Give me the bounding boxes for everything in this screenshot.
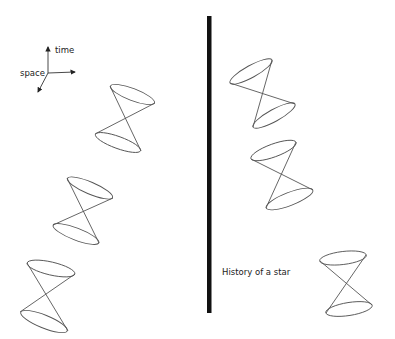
light-cone-left-3 [18,257,76,337]
time-axis-label: time [55,46,74,55]
space-axis-arrow [48,72,75,73]
star-worldline-bar [207,16,212,313]
light-cone-right-1 [227,55,298,133]
history-of-a-star-caption: History of a star [222,268,290,277]
left-cones [18,80,156,336]
light-cone-right-2 [249,136,315,214]
space-axis-label: space [20,69,45,78]
light-cone-right-3 [319,249,373,319]
right-cones [227,55,373,319]
light-cone-left-1 [93,80,156,156]
light-cone-left-2 [51,173,115,248]
